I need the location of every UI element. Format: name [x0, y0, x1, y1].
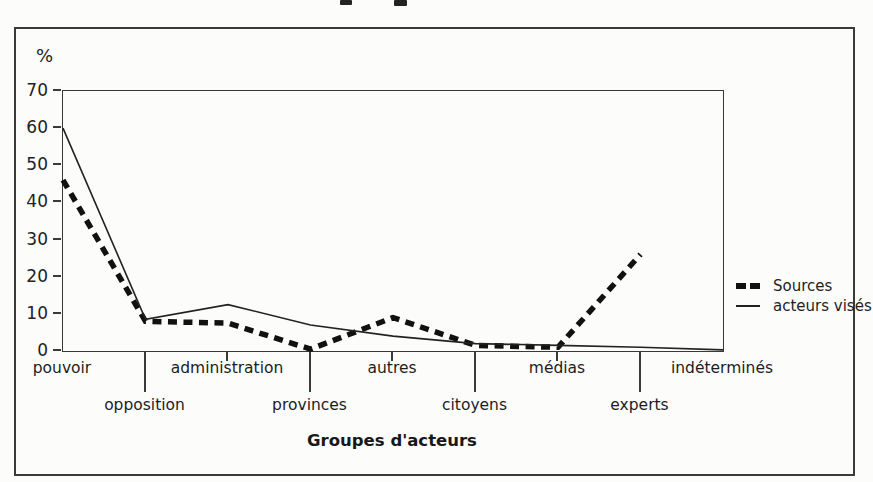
y-axis-tick-label: 0	[14, 342, 48, 359]
y-axis-tick-mark	[53, 349, 61, 351]
y-axis-tick-mark	[53, 126, 61, 128]
y-axis-tick-label: 50	[14, 156, 48, 173]
y-axis-tick-label: 60	[14, 119, 48, 136]
x-axis-tick-mark	[474, 352, 476, 392]
x-axis-category-label-indetermines: indéterminés	[671, 361, 773, 377]
x-axis-category-label-experts: experts	[610, 398, 668, 414]
y-axis-tick-mark	[53, 200, 61, 202]
x-axis-category-label-citoyens: citoyens	[442, 398, 507, 414]
x-axis-title: Groupes d'acteurs	[62, 431, 722, 450]
cropped-text-fragment	[394, 0, 407, 6]
y-axis-tick-mark	[53, 275, 61, 277]
legend-label: acteurs visés	[773, 297, 872, 315]
chart-legend: Sourcesacteurs visés	[736, 276, 872, 316]
x-axis-tick-mark	[309, 352, 311, 392]
x-axis-tick-mark	[639, 352, 641, 392]
x-axis-category-label-administration: administration	[171, 361, 284, 377]
x-axis-category-label-autres: autres	[367, 361, 416, 377]
x-axis-category-label-opposition: opposition	[104, 398, 185, 414]
y-axis-tick-label: 70	[14, 82, 48, 99]
legend-label: Sources	[773, 277, 832, 295]
legend-item: Sources	[736, 276, 872, 296]
cropped-text-fragment	[340, 0, 352, 5]
y-axis-tick-label: 30	[14, 230, 48, 247]
x-axis-tick-mark	[144, 352, 146, 392]
y-axis-tick-label: 10	[14, 304, 48, 321]
legend-item: acteurs visés	[736, 296, 872, 316]
line-chart-plot-area	[62, 90, 724, 352]
x-axis-category-label-provinces: provinces	[272, 398, 347, 414]
y-axis-tick-mark	[53, 312, 61, 314]
y-axis-tick-mark	[53, 238, 61, 240]
y-axis-unit-label: %	[36, 45, 53, 66]
y-axis-tick-mark	[53, 163, 61, 165]
series-line-sources	[63, 180, 641, 349]
line-chart-series	[63, 91, 723, 351]
legend-swatch-thin-line-icon	[736, 305, 766, 307]
scanned-chart-page: % 010203040506070 pouvoiroppositionadmin…	[0, 0, 873, 482]
legend-swatch-thick-dashed-icon	[736, 283, 766, 289]
y-axis-tick-mark	[53, 89, 61, 91]
y-axis-tick-label: 20	[14, 267, 48, 284]
x-axis-category-label-pouvoir: pouvoir	[33, 361, 91, 377]
y-axis-tick-label: 40	[14, 193, 48, 210]
x-axis-category-label-medias: médias	[529, 361, 585, 377]
